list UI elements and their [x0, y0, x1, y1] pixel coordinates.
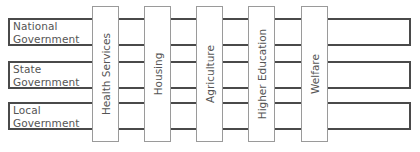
- column-agriculture: Agriculture: [196, 6, 223, 142]
- column-label: Higher Education: [256, 29, 268, 120]
- column-health-services: Health Services: [92, 6, 119, 142]
- row-label-line1: National: [13, 20, 79, 33]
- row-label: State Government: [13, 63, 79, 89]
- row-label: National Government: [13, 20, 79, 46]
- row-label-line2: Government: [13, 76, 79, 89]
- row-label-line1: State: [13, 63, 79, 76]
- column-label: Agriculture: [204, 45, 216, 103]
- column-housing: Housing: [144, 6, 171, 142]
- row-label-line2: Government: [13, 117, 79, 130]
- row-label-line1: Local: [13, 104, 79, 117]
- column-higher-education: Higher Education: [248, 6, 275, 142]
- column-label: Welfare: [309, 54, 321, 94]
- column-label: Housing: [152, 53, 164, 96]
- column-label: Health Services: [100, 33, 112, 115]
- column-welfare: Welfare: [301, 6, 328, 142]
- row-label-line2: Government: [13, 33, 79, 46]
- row-label: Local Government: [13, 104, 79, 130]
